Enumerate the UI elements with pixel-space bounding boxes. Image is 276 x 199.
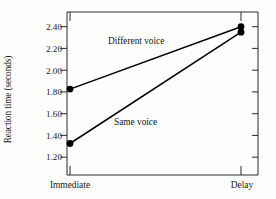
chart-figure: Reaction time (seconds) 2.40 2.20 2.00 1… xyxy=(0,0,276,199)
axis-frame xyxy=(67,12,258,175)
y-axis-ticks-right xyxy=(252,27,258,158)
data-point-same-voice-delay xyxy=(238,29,245,36)
series-line-different-voice xyxy=(67,23,245,92)
data-point-different-voice-immediate xyxy=(67,86,74,93)
line-segment-different-voice xyxy=(70,27,241,89)
data-point-same-voice-immediate xyxy=(67,140,74,147)
plot-area xyxy=(0,0,276,199)
series-line-same-voice xyxy=(67,29,245,147)
y-axis-ticks-left xyxy=(60,27,67,158)
line-segment-same-voice xyxy=(70,32,241,143)
